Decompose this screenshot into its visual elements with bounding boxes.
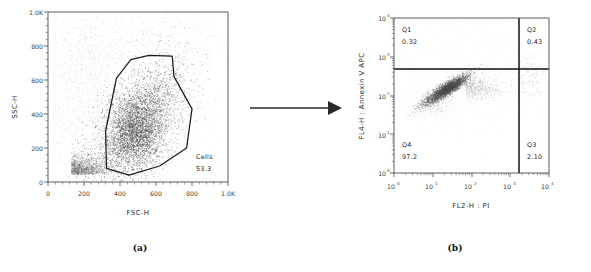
panel-b-ytick-4: 10 <box>378 15 386 22</box>
panel-b-ytick-4-exp: 4 <box>387 13 390 18</box>
panel-b-xtick-1-exp: 1 <box>435 181 438 186</box>
panel-b-xtick-2: 10 <box>464 183 472 190</box>
panel-a-xtick-3: 600 <box>150 190 162 197</box>
panel-b-q3-value: 2.10 <box>527 153 542 161</box>
panel-b-xtick-3-exp: 3 <box>513 181 516 186</box>
panel-b-xtick-0: 10 <box>387 183 395 190</box>
panel-b-xtick-0-exp: 0 <box>397 181 400 186</box>
panel-b-xtick-4: 10 <box>541 183 549 190</box>
panel-b-caption: (b) <box>425 243 485 253</box>
panel-a-xtick-5: 1.0K <box>221 190 236 197</box>
panel-b-ytick-0-exp: 0 <box>387 168 390 173</box>
panel-b-svg: FL4-H : Annexin V APC 10 4 10 3 10 2 10 … <box>355 0 591 232</box>
panel-a-ytick-5: 1.0K <box>29 9 44 16</box>
figure-container: SSC-H 1.0K 800 600 400 200 0 0 200 400 6… <box>0 0 591 272</box>
panel-b-q3-name: Q3 <box>527 141 537 149</box>
panel-a-y-axis-title: SSC-H <box>11 95 19 119</box>
panel-b-q4-name: Q4 <box>402 141 412 149</box>
panel-b-xtick-1: 10 <box>425 183 433 190</box>
panel-b-ytick-3: 10 <box>378 54 386 61</box>
panel-b-q4-value: 97.2 <box>402 153 417 161</box>
panel-b-q2-value: 0.43 <box>527 38 542 46</box>
panel-b-ytick-2-exp: 2 <box>387 91 390 96</box>
transition-arrow <box>248 96 344 120</box>
panel-a-ytick-0: 0 <box>39 179 43 186</box>
panel-a-x-axis-title: FSC-H <box>126 209 149 217</box>
panel-b-quadrant-plot: FL4-H : Annexin V APC 10 4 10 3 10 2 10 … <box>355 0 591 232</box>
panel-b-ytick-labels: 10 4 10 3 10 2 10 1 10 0 <box>378 13 390 177</box>
panel-b-xtick-2-exp: 2 <box>474 181 477 186</box>
right-arrow-icon-head <box>328 101 342 115</box>
panel-a-xtick-4: 800 <box>186 190 198 197</box>
panel-b-data-points <box>398 18 549 154</box>
panel-b-xtick-labels: 10 0 10 1 10 2 10 3 10 4 <box>387 181 554 190</box>
panel-b-q1-value: 0.32 <box>402 38 417 46</box>
panel-b-ytick-1: 10 <box>378 132 386 139</box>
panel-b-ytick-1-exp: 1 <box>387 130 390 135</box>
panel-a-caption: (a) <box>110 243 170 253</box>
panel-b-xtick-3: 10 <box>503 183 511 190</box>
panel-a-gate-label: Cells <box>196 153 213 161</box>
panel-b-y-axis-title: FL4-H : Annexin V APC <box>358 53 366 140</box>
panel-a-gate-value: 53.3 <box>196 165 211 173</box>
panel-b-q1-name: Q1 <box>402 26 412 34</box>
panel-b-ytick-2: 10 <box>378 93 386 100</box>
panel-b-ytick-3-exp: 3 <box>387 52 390 57</box>
panel-a-xtick-1: 200 <box>78 190 90 197</box>
panel-b-q2-name: Q2 <box>527 26 537 34</box>
panel-a-xtick-0: 0 <box>46 190 50 197</box>
panel-a-ytick-3: 600 <box>31 77 43 84</box>
panel-a-ytick-4: 800 <box>31 43 43 50</box>
panel-a-ytick-2: 400 <box>31 111 43 118</box>
panel-b-xtick-4-exp: 4 <box>551 181 554 186</box>
panel-b-ytick-0: 10 <box>378 170 386 177</box>
panel-a-xtick-2: 400 <box>114 190 126 197</box>
panel-b-x-axis-title: FL2-H : PI <box>452 202 489 210</box>
panel-a-ytick-1: 200 <box>31 145 43 152</box>
